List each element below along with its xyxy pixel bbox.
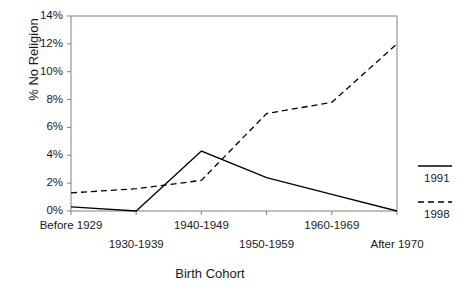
series-line-1991 — [71, 151, 397, 211]
legend-label-1991: 1991 — [424, 172, 450, 184]
y-tick-marks — [67, 16, 71, 211]
x-tick-marks — [71, 211, 397, 215]
chart-container: % No Religion Birth Cohort 0%2%4%6%8%10%… — [0, 0, 468, 289]
axis-lines — [71, 16, 397, 211]
data-series-group — [71, 44, 397, 211]
series-line-1998 — [71, 44, 397, 193]
plot-area — [0, 0, 468, 289]
legend-label-1998: 1998 — [424, 208, 450, 220]
